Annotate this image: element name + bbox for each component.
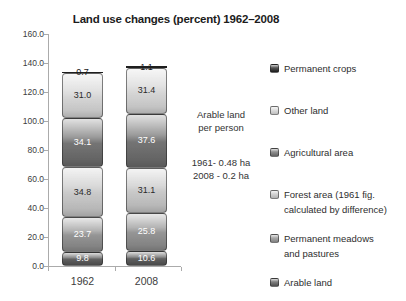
legend-item-label: Agricultural area: [284, 146, 353, 161]
x-axis-category-label: 1962: [52, 275, 113, 287]
annotation-heading-line1: Arable land: [178, 109, 264, 122]
annotation-heading-line2: per person: [178, 122, 264, 135]
chart-figure: Land use changes (percent) 1962–2008 0.0…: [0, 0, 406, 301]
bar-segment-value-label: 1.1: [126, 62, 167, 73]
y-tick-mark: [44, 63, 48, 64]
y-axis-label: 20.0: [8, 232, 44, 242]
legend-item-label: Permanent meadowsand pastures: [284, 232, 374, 261]
bar-segment-value-label: 31.1: [126, 185, 167, 196]
legend-item-label: Other land: [284, 104, 328, 119]
chart-title: Land use changes (percent) 1962–2008: [46, 13, 306, 25]
bar-segment-value-label: 0.7: [62, 67, 103, 78]
y-axis-label: 160.0: [8, 29, 44, 39]
legend-item-label: Permanent crops: [284, 62, 356, 77]
legend-item: Arable land: [270, 276, 332, 291]
bar-segment-value-label: 34.1: [62, 137, 103, 148]
y-tick-mark: [44, 237, 48, 238]
bar-segment-value-label: 37.6: [126, 135, 167, 146]
legend-swatch-icon: [270, 64, 279, 73]
y-axis-label: 140.0: [8, 58, 44, 68]
legend-item: Permanent meadowsand pastures: [270, 232, 374, 261]
y-axis-label: 100.0: [8, 116, 44, 126]
y-axis-label: 40.0: [8, 203, 44, 213]
x-tick-mark: [115, 267, 116, 271]
legend-item: Other land: [270, 104, 328, 119]
bar-segment-value-label: 23.7: [62, 229, 103, 240]
bar-segment-value-label: 31.4: [126, 85, 167, 96]
x-tick-mark: [48, 267, 49, 271]
bar-segment-value-label: 25.8: [126, 226, 167, 237]
y-axis-label: 120.0: [8, 87, 44, 97]
legend-swatch-icon: [270, 190, 279, 199]
y-tick-mark: [44, 208, 48, 209]
bar-segment-value-label: 31.0: [62, 90, 103, 101]
y-axis-label: 60.0: [8, 174, 44, 184]
annotation-value-line2: 2008 - 0.2 ha: [178, 170, 264, 183]
legend-swatch-icon: [270, 234, 279, 243]
x-axis-category-label: 2008: [116, 275, 177, 287]
y-tick-mark: [44, 150, 48, 151]
legend-swatch-icon: [270, 148, 279, 157]
legend-item: Permanent crops: [270, 62, 356, 77]
bar-segment-value-label: 9.8: [62, 253, 103, 264]
legend-swatch-icon: [270, 278, 279, 287]
legend-swatch-icon: [270, 106, 279, 115]
y-axis-line: [48, 34, 49, 266]
legend-item-label: Arable land: [284, 276, 332, 291]
legend-item: Agricultural area: [270, 146, 353, 161]
legend-item-label: Forest area (1961 fig.calculated by diff…: [284, 188, 387, 217]
x-tick-mark: [181, 267, 182, 271]
y-tick-mark: [44, 179, 48, 180]
y-tick-mark: [44, 34, 48, 35]
annotation-block: Arable land per person 1961- 0.48 ha 200…: [178, 109, 264, 182]
bar-segment-value-label: 10.6: [126, 253, 167, 264]
y-axis-label: 80.0: [8, 145, 44, 155]
y-axis-label: 0.0: [8, 261, 44, 271]
legend-item: Forest area (1961 fig.calculated by diff…: [270, 188, 387, 217]
annotation-value-line1: 1961- 0.48 ha: [178, 157, 264, 170]
bar-segment-value-label: 34.8: [62, 187, 103, 198]
y-tick-mark: [44, 121, 48, 122]
y-tick-mark: [44, 92, 48, 93]
